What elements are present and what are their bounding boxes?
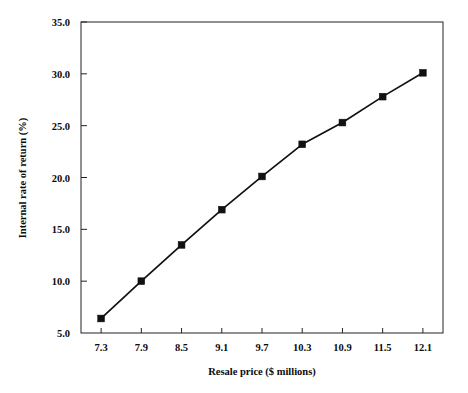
x-tick-label: 10.3	[293, 342, 311, 353]
data-point-marker	[218, 206, 225, 213]
series-path-irr	[101, 73, 423, 319]
data-point-marker	[379, 93, 386, 100]
x-tick-label: 12.1	[414, 342, 432, 353]
data-point-marker	[178, 241, 185, 248]
data-point-marker	[98, 315, 105, 322]
data-series-irr	[101, 73, 423, 319]
x-axis-title: Resale price ($ millions)	[208, 366, 316, 378]
x-axis-ticks	[101, 328, 423, 333]
data-point-marker	[299, 141, 306, 148]
x-tick-label: 9.1	[215, 342, 228, 353]
x-tick-label: 8.5	[175, 342, 188, 353]
y-tick-label: 10.0	[52, 276, 70, 287]
y-axis-title: Internal rate of return (%)	[17, 117, 29, 238]
data-point-markers	[98, 69, 427, 321]
y-tick-label: 25.0	[52, 121, 70, 132]
y-tick-label: 35.0	[52, 17, 70, 28]
y-tick-label: 20.0	[52, 173, 70, 184]
data-point-marker	[259, 173, 266, 180]
y-axis-ticks	[81, 22, 87, 281]
data-point-marker	[138, 278, 145, 285]
y-axis-tick-labels: 5.010.015.020.025.030.035.0	[52, 17, 70, 339]
line-chart: 7.37.98.59.19.710.310.911.512.1 5.010.01…	[0, 0, 468, 393]
x-tick-label: 7.3	[95, 342, 108, 353]
x-tick-label: 11.5	[374, 342, 392, 353]
y-tick-label: 15.0	[52, 224, 70, 235]
y-tick-label: 5.0	[57, 328, 70, 339]
x-axis-tick-labels: 7.37.98.59.19.710.310.911.512.1	[95, 342, 433, 353]
chart-figure: 7.37.98.59.19.710.310.911.512.1 5.010.01…	[0, 0, 468, 393]
y-tick-label: 30.0	[52, 69, 70, 80]
x-tick-label: 10.9	[333, 342, 351, 353]
data-point-marker	[339, 119, 346, 126]
data-point-marker	[419, 69, 426, 76]
x-tick-label: 9.7	[255, 342, 268, 353]
x-tick-label: 7.9	[135, 342, 148, 353]
